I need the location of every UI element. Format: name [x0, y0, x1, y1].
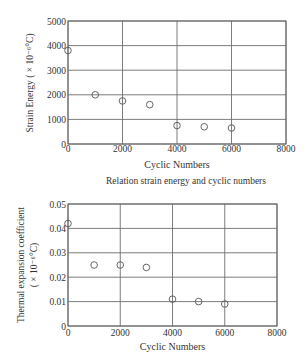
- y-tick-label: 0.01: [49, 297, 66, 307]
- data-point-marker: [146, 101, 153, 108]
- x-tick-label: 6000: [215, 328, 234, 338]
- figure-canvas: 01000200030004000500002000400060008000Cy…: [0, 0, 308, 352]
- data-point-marker: [91, 262, 98, 269]
- data-point-marker: [143, 264, 150, 271]
- x-tick-label: 2000: [113, 144, 132, 154]
- y-tick-label: 0.04: [49, 224, 66, 234]
- thermal-expansion-chart: 00.010.020.030.040.0502000400060008000Cy…: [16, 200, 287, 352]
- x-tick-label: 8000: [277, 144, 296, 154]
- x-tick-label: 0: [66, 144, 71, 154]
- x-axis-label: Cyclic Numbers: [140, 341, 205, 352]
- y-tick-label: 3000: [47, 66, 66, 76]
- y-tick-label: 4000: [47, 41, 66, 51]
- y-tick-label: 5000: [47, 17, 66, 27]
- y-tick-label: 0.03: [49, 248, 66, 258]
- strain-energy-chart: 01000200030004000500002000400060008000Cy…: [25, 17, 296, 171]
- x-tick-label: 4000: [163, 328, 182, 338]
- y-tick-label: 2000: [47, 90, 66, 100]
- x-tick-label: 6000: [222, 144, 241, 154]
- figure: 01000200030004000500002000400060008000Cy…: [0, 0, 308, 352]
- data-point-marker: [201, 123, 208, 130]
- x-tick-label: 2000: [111, 328, 130, 338]
- x-tick-label: 8000: [268, 328, 287, 338]
- y-axis-label: Strain Energy ( × 10⁻⁶°C): [25, 33, 36, 132]
- y-axis-label: Thermal expansion coefficient: [16, 207, 26, 323]
- y-tick-label: 0.02: [49, 273, 66, 283]
- figure-caption: Relation strain energy and cyclic number…: [106, 176, 266, 186]
- x-tick-label: 4000: [168, 144, 187, 154]
- y-axis-label: ( × 10⁻⁶°C): [29, 243, 40, 287]
- x-axis-label: Cyclic Numbers: [144, 159, 209, 170]
- y-tick-label: 1000: [47, 115, 66, 125]
- y-tick-label: 0.05: [49, 200, 66, 210]
- x-tick-label: 0: [66, 328, 71, 338]
